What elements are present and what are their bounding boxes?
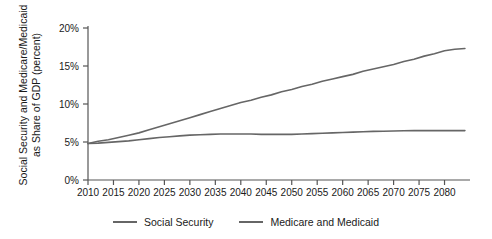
chart-figure: Social Security and Medicare/Medicaid as… xyxy=(0,0,492,239)
x-tick-label: 2010 xyxy=(77,187,100,198)
series-line-social-security xyxy=(88,131,465,144)
series-line-medicare-and-medicaid xyxy=(88,49,465,144)
x-tick-label: 2035 xyxy=(204,187,227,198)
y-tick-label: 20% xyxy=(59,23,79,34)
y-axis-tick-labels: 0%5%10%15%20% xyxy=(59,23,79,186)
y-tick-label: 5% xyxy=(65,137,80,148)
x-tick-label: 2045 xyxy=(255,187,278,198)
legend-swatch-social-security xyxy=(113,221,137,223)
y-tick-label: 10% xyxy=(59,99,79,110)
x-tick-label: 2055 xyxy=(306,187,329,198)
x-tick-label: 2050 xyxy=(281,187,304,198)
y-axis-tick-marks xyxy=(83,28,88,180)
y-tick-label: 0% xyxy=(65,175,80,186)
x-tick-label: 2020 xyxy=(128,187,151,198)
data-series-group xyxy=(88,49,465,144)
legend-item-social-security: Social Security xyxy=(113,216,213,228)
legend-label-medicare-medicaid: Medicare and Medicaid xyxy=(270,216,379,228)
x-tick-label: 2015 xyxy=(102,187,125,198)
x-tick-label: 2075 xyxy=(408,187,431,198)
x-tick-label: 2080 xyxy=(433,187,456,198)
x-tick-label: 2040 xyxy=(230,187,253,198)
x-tick-label: 2030 xyxy=(179,187,202,198)
legend-swatch-medicare-medicaid xyxy=(239,221,263,223)
x-tick-label: 2025 xyxy=(153,187,176,198)
plot-area: 0%5%10%15%20% 20102015202020252030203520… xyxy=(0,0,492,239)
x-axis-tick-marks xyxy=(88,180,445,185)
x-tick-label: 2070 xyxy=(382,187,405,198)
chart-legend: Social Security Medicare and Medicaid xyxy=(0,208,492,236)
y-tick-label: 15% xyxy=(59,61,79,72)
legend-label-social-security: Social Security xyxy=(144,216,213,228)
legend-item-medicare-medicaid: Medicare and Medicaid xyxy=(239,216,379,228)
x-tick-label: 2065 xyxy=(357,187,380,198)
x-tick-label: 2060 xyxy=(332,187,355,198)
x-axis-tick-labels: 2010201520202025203020352040204520502055… xyxy=(77,187,456,198)
